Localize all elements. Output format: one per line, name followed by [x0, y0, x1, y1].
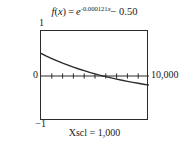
- equals-sign: =: [66, 6, 76, 17]
- viewing-rectangle: [40, 30, 148, 120]
- plot-canvas: [41, 31, 149, 121]
- y-max-label: 1: [32, 17, 44, 28]
- x-max-label: 10,000: [151, 69, 179, 80]
- exponent-group: -0.000121x: [81, 5, 111, 12]
- exponent-coefficient: -0.000121: [81, 5, 108, 12]
- function-curve: [41, 54, 149, 86]
- xscl-caption: Xscl = 1,000: [0, 127, 189, 139]
- y-zero-label: 0: [26, 69, 38, 80]
- function-expression-title: f(x)=e-0.000121x− 0.50: [0, 6, 189, 18]
- graph-figure: f(x)=e-0.000121x− 0.50 1 0 −1 10,00: [0, 0, 189, 147]
- constant-term: − 0.50: [111, 6, 138, 17]
